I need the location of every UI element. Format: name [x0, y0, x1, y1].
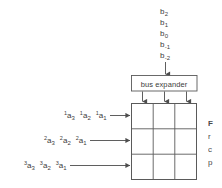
diagram-graphics	[0, 0, 222, 188]
operand-row-2: 2a3 2a2 2a1	[44, 136, 87, 145]
bus-input-label-b2: b2	[160, 8, 168, 16]
operand-label-a13: 1a3	[64, 111, 75, 120]
operand-label-a33: 3a3	[24, 161, 35, 170]
operand-label-a23: 2a3	[44, 136, 55, 145]
bus-input-label-b-1: b-1	[160, 41, 170, 49]
caption-line-1: F	[208, 118, 222, 131]
operand-label-a31: 3a1	[56, 161, 67, 170]
operand-label-a11: 1a1	[96, 111, 107, 120]
processing-array-grid	[132, 104, 197, 180]
bus-input-label-b0: b0	[160, 30, 168, 38]
caption-line-3: c	[208, 144, 222, 157]
operand-label-a22: 2a2	[60, 136, 71, 145]
bus-input-label-b1: b1	[160, 19, 168, 27]
caption-line-2: r	[208, 131, 222, 144]
bus-expander-systolic-array-diagram: b2 b1 b0 b-1 b-2 bus expander 1a3 1a2 1a…	[0, 0, 222, 188]
expander-output-arrows	[143, 92, 187, 102]
operand-row-1: 1a3 1a2 1a1	[64, 111, 107, 120]
figure-caption-clipped: F r c p	[208, 118, 222, 170]
operand-label-a12: 1a2	[80, 111, 91, 120]
operand-row-3: 3a3 3a2 3a1	[24, 161, 67, 170]
bus-input-label-b-2: b-2	[160, 52, 170, 60]
bus-expander-label: bus expander	[131, 80, 197, 89]
operand-label-a21: 2a1	[76, 136, 87, 145]
operand-label-a32: 3a2	[40, 161, 51, 170]
caption-line-4: p	[208, 157, 222, 170]
